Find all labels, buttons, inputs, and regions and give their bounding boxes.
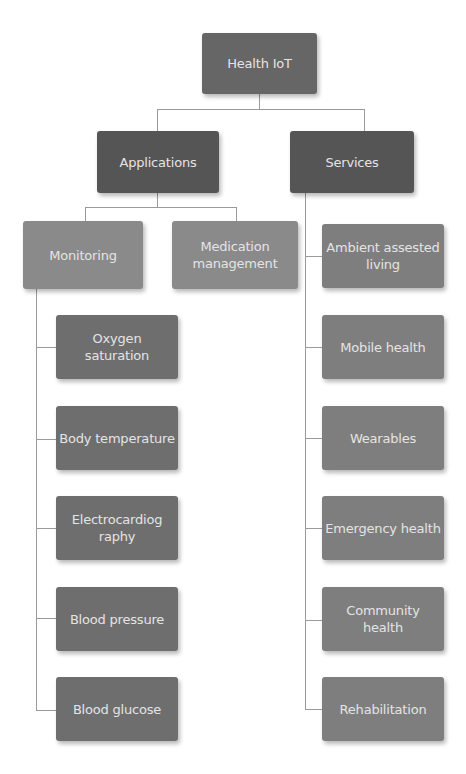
node-label: Rehabilitation [340,701,427,718]
connector [36,439,56,440]
node-monitoring: Monitoring [23,221,143,289]
connector [157,109,158,131]
connector [85,207,86,221]
health-iot-diagram: Health IoT Applications Services Monitor… [0,0,466,774]
node-community-health: Community health [322,587,444,651]
connector [305,256,323,257]
node-applications: Applications [97,131,219,193]
node-label: Applications [119,154,196,171]
node-rehabilitation: Rehabilitation [322,677,444,741]
node-medication-management: Medication management [172,221,298,289]
connector [36,347,56,348]
node-emergency-health: Emergency health [322,496,444,560]
connector [36,528,56,529]
connector [305,347,323,348]
connector [305,528,323,529]
connector [36,618,56,619]
connector [364,109,365,131]
node-mobile-health: Mobile health [322,315,444,379]
connector [305,438,323,439]
node-label: Emergency health [325,520,440,537]
node-label: Oxygen saturation [59,330,175,364]
connector [36,289,37,711]
node-ambient-assisted-living: Ambient assested living [322,224,444,288]
node-wearables: Wearables [322,406,444,470]
node-label: Community health [325,602,441,636]
connector [157,109,364,110]
node-health-iot: Health IoT [202,33,317,94]
connector [157,193,158,207]
node-label: Blood pressure [70,611,164,628]
node-label: Body temperature [59,430,174,447]
connector [305,193,306,710]
connector [259,94,260,109]
node-label: Medication management [175,238,295,272]
node-label: Services [325,154,378,171]
node-label: Electrocardiog raphy [59,511,175,545]
connector [85,207,236,208]
node-label: Blood glucose [73,701,161,718]
node-body-temperature: Body temperature [56,406,178,470]
node-label: Monitoring [49,247,117,264]
node-oxygen-saturation: Oxygen saturation [56,315,178,379]
node-electrocardiography: Electrocardiog raphy [56,496,178,560]
node-blood-glucose: Blood glucose [56,677,178,741]
connector [236,207,237,221]
node-label: Mobile health [340,339,425,356]
node-blood-pressure: Blood pressure [56,587,178,651]
connector [305,620,323,621]
node-services: Services [290,131,414,193]
connector [305,709,323,710]
node-label: Health IoT [227,55,292,72]
node-label: Ambient assested living [325,239,441,273]
node-label: Wearables [350,430,416,447]
connector [36,710,56,711]
